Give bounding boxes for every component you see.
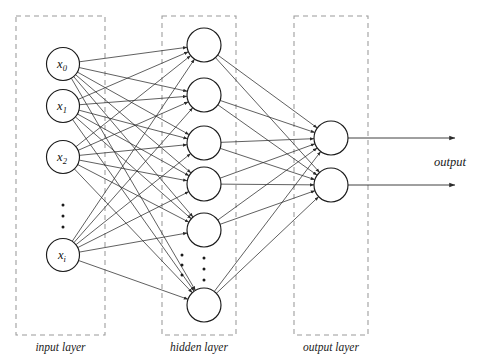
neuron-node [187, 213, 221, 247]
neuron-node [187, 28, 221, 62]
hidden-ellipsis-dot [203, 279, 206, 282]
input-ellipsis-dot [62, 215, 65, 218]
connection-edge [220, 191, 315, 225]
connection-edge [72, 59, 194, 241]
neuron-node [187, 288, 221, 322]
neuron-node [187, 126, 221, 160]
connection-edge [74, 108, 193, 243]
input-layer-caption: input layer [35, 341, 86, 354]
hidden-ellipsis-dot [181, 274, 184, 277]
connection-edge [220, 148, 315, 179]
connection-edge [78, 102, 188, 151]
connection-edge [79, 261, 188, 300]
connection-edge [221, 139, 314, 143]
hidden-ellipsis-dot [181, 254, 184, 257]
hidden-layer-nodes [187, 28, 221, 322]
output-layer-nodes [314, 121, 348, 202]
neuron-node [314, 168, 348, 202]
neuron-node [187, 78, 221, 112]
connection-edge [75, 117, 191, 219]
connection-edge [79, 160, 187, 181]
input-ellipsis-dot [62, 204, 65, 207]
neuron-node [314, 121, 348, 155]
hidden-ellipsis-dot [203, 268, 206, 271]
neuron-node [187, 167, 221, 201]
input-ellipsis-dot [62, 226, 65, 229]
hidden-ellipsis-dot [203, 257, 206, 260]
connection-edge [74, 169, 192, 293]
connection-edge [214, 152, 320, 292]
connection-edge [71, 78, 195, 290]
output-layer-caption: output layer [303, 341, 359, 354]
hidden-to-output-edges [214, 55, 320, 293]
output-signal-label: output [434, 155, 466, 169]
neural-network-diagram: x0x1x2xi input layer hidden layer output… [0, 0, 486, 360]
connection-edge [216, 197, 318, 294]
connection-edge [78, 165, 189, 223]
diagram-canvas: x0x1x2xi input layer hidden layer output… [0, 0, 486, 360]
input-to-hidden-edges [71, 47, 195, 299]
hidden-layer-caption: hidden layer [170, 341, 228, 354]
hidden-ellipsis-dot [181, 264, 184, 267]
connection-edge [77, 114, 189, 176]
connection-edge [218, 55, 318, 128]
connection-edge [220, 144, 315, 178]
connection-edge [76, 56, 191, 147]
connection-edge [215, 58, 319, 173]
